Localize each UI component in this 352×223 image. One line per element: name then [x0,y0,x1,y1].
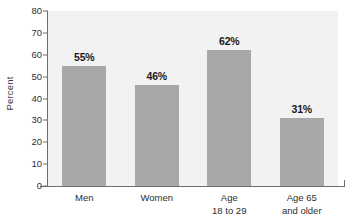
bar-value-label: 55% [74,51,95,63]
y-axis-tick-label: 10 [18,159,42,169]
x-axis-category-label: Age18 to 29 [212,191,246,217]
y-axis-title-label: Percent [4,76,15,110]
y-axis-tick-label: 80 [18,6,42,16]
y-axis-line [47,11,48,187]
y-axis-tick-label: 20 [18,138,42,148]
bar-value-label: 31% [291,103,312,115]
y-axis-tick-mark [43,11,48,12]
bar-value-label: 62% [219,35,240,47]
y-axis-tick-mark [43,186,48,187]
x-axis-category-label: Men [75,191,93,204]
y-axis-tick-mark [43,120,48,121]
y-axis-tick-mark [43,76,48,77]
x-axis-line [40,186,345,187]
category-label-line1: Age [221,192,238,203]
y-axis-tick-label: 30 [18,116,42,126]
x-axis-category-label: Women [140,191,173,204]
x-axis-end-cap [344,180,345,187]
y-axis-tick-label: 70 [18,28,42,38]
x-axis-category-label: Age 65and older [282,191,322,217]
y-axis-tick-label: 0 [18,181,42,191]
bar [135,85,179,186]
bar [280,118,324,186]
y-axis-tick-label: 50 [18,72,42,82]
y-axis-tick-label: 60 [18,50,42,60]
bar-chart: Percent 80706050403020100 55%46%62%31% M… [0,0,352,223]
y-axis-tick-mark [43,54,48,55]
y-axis-tick-label: 40 [18,94,42,104]
bar [62,66,106,186]
y-axis-tick-mark [43,98,48,99]
category-label-line1: Men [75,192,93,203]
category-label-line2: and older [282,204,322,217]
category-label-line1: Women [140,192,173,203]
category-label-line2: 18 to 29 [212,204,246,217]
y-axis-tick-labels: 80706050403020100 [18,0,42,190]
bar [207,50,251,186]
y-axis-title: Percent [0,0,18,186]
y-axis-tick-mark [43,32,48,33]
bar-value-label: 46% [146,70,167,82]
y-axis-tick-mark [43,164,48,165]
category-label-line1: Age 65 [287,192,317,203]
y-axis-tick-mark [43,142,48,143]
